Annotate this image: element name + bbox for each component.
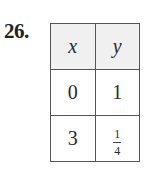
cell-x: 3 (51, 116, 96, 162)
fraction-bar (113, 142, 121, 143)
table-row: 3 1 4 (51, 116, 140, 162)
header-y: y (95, 24, 140, 70)
cell-x: 0 (51, 70, 96, 116)
header-x: x (51, 24, 96, 70)
table-row: 0 1 (51, 70, 140, 116)
table-header-row: x y (51, 24, 140, 70)
xy-table: x y 0 1 3 1 4 (50, 23, 140, 162)
cell-y-fraction: 1 4 (95, 116, 140, 162)
fraction-numerator: 1 (114, 128, 120, 140)
fraction-denominator: 4 (114, 145, 120, 157)
fraction: 1 4 (113, 128, 121, 157)
cell-y: 1 (95, 70, 140, 116)
problem-number: 26. (4, 19, 29, 44)
